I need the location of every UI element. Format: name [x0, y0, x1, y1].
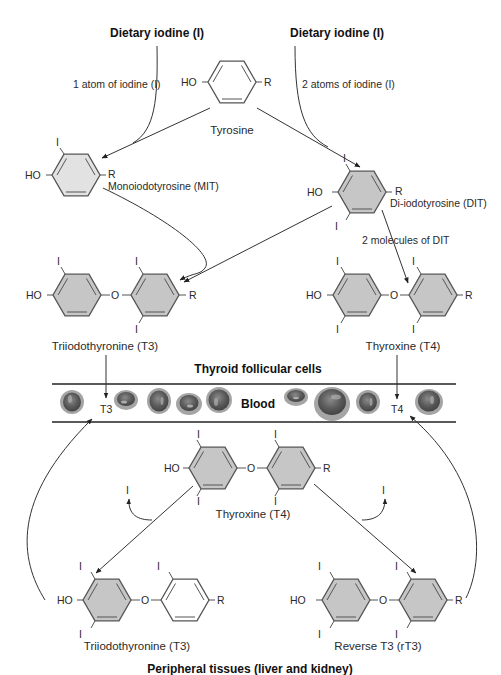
rt3-ring-right — [399, 579, 447, 621]
rt3-iodine-2: I — [318, 628, 321, 640]
t3-ho: HO — [26, 289, 42, 301]
arrow-t4-to-rt3 — [314, 484, 416, 573]
dietary-iodine-left-label: Dietary iodine (I) — [110, 26, 204, 40]
t4-peripheral-ring-right — [267, 447, 315, 489]
t4-iodine-3: I — [412, 255, 415, 267]
arrow-dit-to-t4 — [382, 210, 408, 283]
dit-ho: HO — [307, 186, 323, 198]
arrow-rt3-to-blood — [410, 416, 477, 598]
dit-combine-label: 2 molecules of DIT — [362, 234, 450, 246]
rbc-icon — [114, 390, 138, 410]
t4-ho: HO — [306, 289, 322, 301]
arrow-t4-to-t3-peripheral — [96, 486, 193, 573]
tyrosine-ring — [208, 61, 256, 103]
t3p-iodine-1: I — [79, 560, 82, 572]
rbc-icon — [147, 388, 171, 414]
iodine-right-arrow — [295, 46, 328, 147]
rt3-r: R — [455, 594, 463, 606]
rt3-iodine-4: I — [395, 628, 398, 640]
arrow-t3-peripheral-to-blood — [27, 419, 92, 600]
t4-iodine-1: I — [336, 255, 339, 267]
t3-iodine-3: I — [135, 323, 138, 335]
t3p-o-bridge: O — [141, 594, 149, 606]
t4-o-bridge: O — [390, 289, 398, 301]
rt3-ring-left — [322, 579, 370, 621]
t4-iodine-2: I — [336, 323, 339, 335]
rbc-icon — [415, 389, 443, 415]
dit-r: R — [395, 185, 403, 197]
rbc-icon — [60, 390, 84, 414]
rt3-iodine-1: I — [318, 560, 321, 572]
t4p-iodine-1: I — [197, 428, 200, 440]
t3-iodine-2: I — [135, 255, 138, 267]
mit-r: R — [108, 168, 116, 180]
t4p-iodine-3: I — [274, 428, 277, 440]
dit-iodine-top: I — [343, 152, 346, 164]
blood-label: Blood — [241, 397, 275, 411]
tyrosine-r: R — [264, 76, 272, 88]
rt3-o-bridge: O — [379, 594, 387, 606]
blood-t4-label: T4 — [391, 403, 403, 415]
mit-iodine: I — [56, 136, 59, 148]
arrow-tyrosine-to-mit — [102, 108, 210, 158]
rbc-icon — [284, 388, 308, 406]
t4p-o-bridge: O — [247, 462, 255, 474]
t4-peripheral-label: Thyroxine (T4) — [216, 508, 291, 520]
t4p-iodine-4: I — [274, 495, 277, 507]
dit-label: Di-iodotyrosine (DIT) — [390, 197, 487, 209]
rt3-iodine-3: I — [395, 560, 398, 572]
t3p-iodine-3: I — [157, 560, 160, 572]
released-iodine-left: I — [126, 484, 129, 496]
t3-r: R — [189, 289, 197, 301]
t3-o-bridge: O — [111, 289, 119, 301]
t3-peripheral-label: Triiodothyronine (T3) — [84, 640, 190, 652]
t3-thyroid-ring-right — [131, 274, 179, 316]
rbc-icon — [356, 390, 380, 414]
thyroid-pathway-diagram: Dietary iodine (I) Dietary iodine (I) 1 … — [0, 0, 501, 675]
rbc-icon — [314, 387, 350, 421]
t4-iodine-4: I — [412, 323, 415, 335]
dit-ring — [338, 171, 386, 213]
released-iodine-right: I — [382, 484, 385, 496]
mit-label: Monoiodotyrosine (MIT) — [108, 180, 219, 192]
t4-thyroid-ring-right — [409, 274, 457, 316]
dietary-iodine-right-label: Dietary iodine (I) — [290, 26, 384, 40]
iodine-left-arrow — [133, 46, 157, 143]
t3-iodine-1: I — [57, 255, 60, 267]
mit-ring — [52, 154, 100, 196]
t4p-r: R — [323, 462, 331, 474]
t3-thyroid-ring-left — [53, 274, 101, 316]
rbc-icon — [176, 393, 202, 415]
rt3-label: Reverse T3 (rT3) — [334, 640, 422, 652]
dit-iodine-bottom: I — [335, 220, 338, 232]
blood-t3-label: T3 — [100, 403, 112, 415]
iodine-release-left-arrow — [129, 499, 152, 520]
arrow-mit-to-t3 — [103, 188, 206, 280]
t3-peripheral-ring-right — [161, 579, 209, 621]
t4-peripheral-ring-left — [189, 447, 237, 489]
thyroid-cells-label: Thyroid follicular cells — [194, 362, 322, 376]
tyrosine-ho: HO — [181, 76, 197, 88]
two-atoms-label: 2 atoms of iodine (I) — [302, 78, 395, 90]
t3-peripheral-ring-left — [83, 579, 131, 621]
t4p-ho: HO — [164, 462, 180, 474]
arrow-dit-to-t3 — [184, 206, 332, 282]
t4-thyroid-ring-left — [333, 274, 381, 316]
t3p-iodine-2: I — [79, 628, 82, 640]
mit-ho: HO — [25, 169, 41, 181]
tyrosine-label: Tyrosine — [210, 124, 253, 136]
rbc-icon — [206, 387, 232, 413]
t3p-r: R — [217, 594, 225, 606]
rt3-ho: HO — [290, 594, 306, 606]
t4-r: R — [465, 289, 473, 301]
peripheral-tissues-label: Peripheral tissues (liver and kidney) — [147, 662, 352, 675]
iodine-release-right-arrow — [362, 499, 385, 520]
t3-thyroid-label: Triiodothyronine (T3) — [52, 340, 158, 352]
one-atom-label: 1 atom of iodine (I) — [73, 78, 161, 90]
t4-thyroid-label: Thyroxine (T4) — [366, 340, 441, 352]
t3p-ho: HO — [57, 594, 73, 606]
t4p-iodine-2: I — [197, 495, 200, 507]
